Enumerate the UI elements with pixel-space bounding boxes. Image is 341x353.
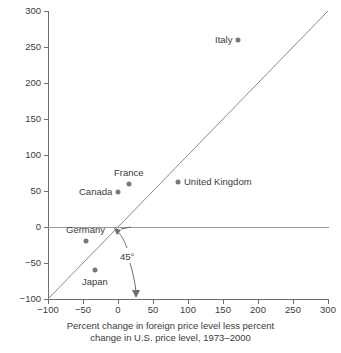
x-axis-tick-label: 200 (238, 305, 278, 315)
y-axis-tick (44, 263, 48, 264)
y-axis-tick-label: 300 (11, 6, 41, 16)
angle-arrow-to-axis-head (132, 290, 140, 298)
angle-arrow-to-line-head (114, 228, 121, 235)
data-point-label-italy: Italy (215, 34, 232, 45)
y-axis-line (48, 11, 49, 300)
angle-arrow-to-axis (130, 263, 136, 292)
x-axis-tick-label: 250 (273, 305, 313, 315)
angle-annotation-label: 45° (120, 251, 134, 262)
data-point-united-kingdom[interactable] (175, 180, 180, 185)
y-axis-tick (44, 155, 48, 156)
y-axis-tick-label: 250 (11, 42, 41, 52)
reference-line-overlay (0, 0, 341, 353)
scatter-chart-figure: −100−50050100150200250300 −100−500501001… (0, 0, 341, 353)
y-axis-tick-label: −100 (11, 294, 41, 304)
x-axis-tick-label: 100 (168, 305, 208, 315)
x-axis-tick-label: 0 (98, 305, 138, 315)
caption-line-2: change in U.S. price level, 1973–2000 (0, 332, 341, 344)
y-axis-tick (44, 83, 48, 84)
data-point-canada[interactable] (116, 189, 121, 194)
angle-arrow-to-line (117, 231, 127, 248)
x-axis-tick-label: −100 (28, 305, 68, 315)
data-point-france[interactable] (126, 181, 131, 186)
y-axis-tick-label: −50 (11, 258, 41, 268)
data-point-label-canada: Canada (79, 186, 112, 197)
y-axis-tick-label: 150 (11, 114, 41, 124)
data-point-germany[interactable] (83, 239, 88, 244)
chart-caption: Percent change in foreign price level le… (0, 320, 341, 344)
y-axis-tick (44, 47, 48, 48)
x-axis-tick-label: 50 (133, 305, 173, 315)
data-point-label-france: France (114, 167, 144, 178)
forty-five-degree-line (48, 11, 328, 299)
data-point-label-germany: Germany (66, 224, 105, 235)
y-axis-tick-label: 0 (11, 222, 41, 232)
y-axis-tick (44, 11, 48, 12)
data-point-japan[interactable] (92, 268, 97, 273)
y-axis-tick-label: 100 (11, 150, 41, 160)
data-point-label-japan: Japan (82, 276, 108, 287)
y-axis-tick (44, 191, 48, 192)
x-axis-tick-label: 150 (203, 305, 243, 315)
x-axis-tick-label: 300 (308, 305, 341, 315)
x-axis-tick-label: −50 (63, 305, 103, 315)
y-axis-tick-label: 200 (11, 78, 41, 88)
y-axis-tick (44, 227, 48, 228)
y-axis-tick (44, 119, 48, 120)
data-point-italy[interactable] (236, 37, 241, 42)
y-axis-tick-label: 50 (11, 186, 41, 196)
data-point-label-united-kingdom: United Kingdom (184, 176, 252, 187)
caption-line-1: Percent change in foreign price level le… (0, 320, 341, 332)
